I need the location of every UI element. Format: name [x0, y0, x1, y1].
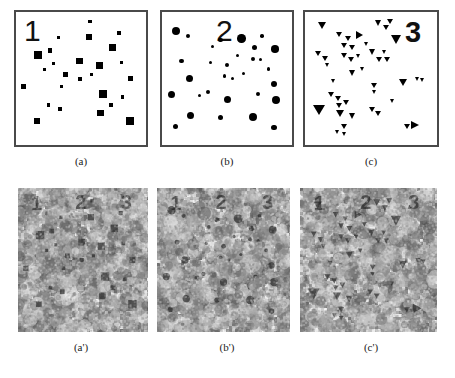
noisy-panel-b [157, 188, 290, 332]
caption-b-prime: (b') [187, 341, 267, 353]
noisy-panel-a [18, 188, 148, 332]
noisy-panel-c [300, 188, 437, 332]
figure-root: 1 2 3 (a) (b) (c) (a') (b') (c') [0, 0, 455, 378]
caption-c-prime: (c') [331, 341, 411, 353]
caption-a-prime: (a') [41, 341, 121, 353]
noisy-panel-row [0, 0, 455, 378]
